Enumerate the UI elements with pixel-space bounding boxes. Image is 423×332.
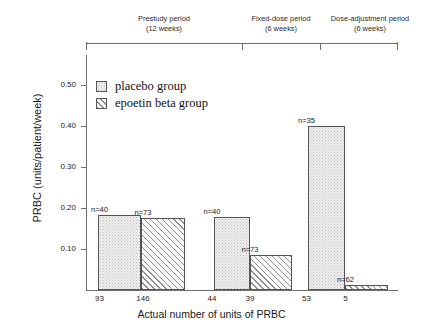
y-tick-label: 0.10 [42, 244, 76, 253]
bar-n-label-group2-placebo: n=35 [288, 116, 325, 125]
period-bracket [86, 43, 398, 50]
period-name: Prestudy period [138, 14, 190, 23]
bracket-tick-start [86, 42, 87, 50]
period-duration: (6 weeks) [320, 24, 420, 34]
period-label-dose-adjustment: Dose-adjustment period (6 weeks) [320, 14, 420, 33]
bar-group0-placebo [98, 215, 141, 290]
x-label-44: 44 [194, 294, 230, 303]
period-duration: (12 weeks) [86, 24, 242, 34]
y-tick-label: 0.20 [42, 203, 76, 212]
x-axis-title: Actual number of units of PRBC [0, 308, 423, 320]
x-axis-line [86, 290, 398, 291]
bars-layer [86, 55, 398, 290]
y-axis-title: PRBC (units/patient/week) [31, 43, 43, 273]
bar-group2-placebo [308, 126, 345, 290]
bracket-tick-2 [320, 43, 321, 50]
chart-figure: Prestudy period (12 weeks) Fixed-dose pe… [0, 0, 423, 332]
bar-n-label-group1-epoetin: n=73 [229, 245, 271, 254]
period-name: Dose-adjustment period [331, 14, 409, 23]
x-label-146: 146 [121, 294, 165, 303]
y-tick-label: 0.30 [42, 162, 76, 171]
period-duration: (6 weeks) [242, 24, 320, 34]
bar-group0-epoetin [141, 218, 185, 290]
bracket-tick-1 [242, 43, 243, 50]
bar-n-label-group1-placebo: n=40 [194, 207, 230, 216]
y-tick-label: 0.50 [42, 80, 76, 89]
x-label-53: 53 [288, 294, 325, 303]
period-name: Fixed-dose period [251, 14, 310, 23]
x-label-5: 5 [324, 294, 367, 303]
period-label-prestudy: Prestudy period (12 weeks) [86, 14, 242, 33]
bracket-tick-end [397, 42, 398, 50]
period-label-fixed-dose: Fixed-dose period (6 weeks) [242, 14, 320, 33]
bar-n-label-group2-epoetin: n=62 [324, 275, 367, 284]
y-tick-label: 0.40 [42, 121, 76, 130]
bar-n-label-group0-placebo: n=40 [78, 205, 121, 214]
bar-group2-epoetin [345, 285, 388, 290]
x-label-93: 93 [78, 294, 121, 303]
bar-group1-epoetin [250, 255, 292, 290]
x-label-39: 39 [229, 294, 271, 303]
bar-n-label-group0-epoetin: n=73 [121, 208, 165, 217]
